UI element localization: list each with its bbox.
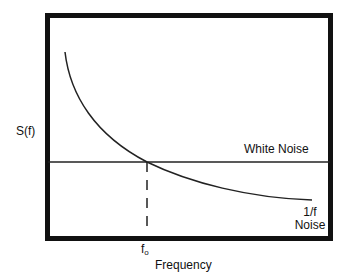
noise-spectrum-diagram [0,0,346,274]
one-over-f-curve [65,52,312,200]
one-over-f-noise-label: 1/f Noise [290,206,330,232]
plot-frame [48,16,331,239]
one-over-f-label-line2: Noise [290,219,330,232]
corner-frequency-label: fo [141,243,149,259]
corner-frequency-subscript: o [144,248,148,257]
y-axis-label: S(f) [16,125,35,138]
white-noise-label: White Noise [244,143,309,156]
x-axis-label: Frequency [155,259,212,272]
